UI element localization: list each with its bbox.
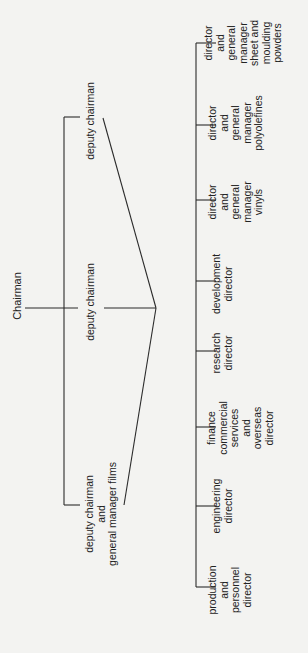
deputy-top-node: deputy chairman [85,82,97,160]
deputy-top-label: deputy chairman [85,82,97,160]
director-sheet-line: sheet and [249,20,261,66]
director-vinyls-line: general [230,181,242,222]
deputy-films-converge [124,308,156,505]
chairman-label: Chairman [12,272,24,320]
director-finance-line: finance [206,401,218,455]
director-production-line: production [207,565,219,614]
deputy-top-converge [103,118,156,308]
director-finance-line: services [229,401,241,455]
director-finance-line: director [263,401,275,455]
director-development-line: director [222,254,234,314]
deputy-middle-node: deputy chairman [85,263,97,341]
deputy-films-line: general manager films [107,462,119,566]
director-finance-node: finance commercial services and overseas… [206,401,275,455]
deputy-middle-label: deputy chairman [85,263,97,341]
director-polyolefines-node: director and general manager polyolefine… [207,95,265,150]
deputy-films-node: deputy chairman and general manager film… [84,462,119,566]
director-sheet-node: director and general manager sheet and m… [203,20,284,66]
director-engineering-line: engineering [211,479,223,534]
chairman-node: Chairman [12,272,24,320]
director-vinyls-line: vinyls [253,181,265,222]
director-production-line: director [242,565,254,614]
director-vinyls-node: director and general manager vinyls [207,181,265,222]
deputy-films-line: deputy chairman [84,462,96,566]
director-development-line: development [211,254,223,314]
director-polyolefines-line: polyolefines [253,95,265,150]
director-research-line: director [222,333,234,374]
director-research-line: research [211,333,223,374]
director-sheet-line: general [226,20,238,66]
director-polyolefines-line: director [207,95,219,150]
director-production-line: personnel [230,565,242,614]
director-research-node: research director [211,333,234,374]
director-engineering-node: engineering director [211,479,234,534]
director-production-node: production and personnel director [207,565,253,614]
director-sheet-line: director [203,20,215,66]
director-engineering-line: director [222,479,234,534]
director-polyolefines-line: general [230,95,242,150]
director-sheet-line: powders [272,20,284,66]
director-finance-line: overseas [252,401,264,455]
director-development-node: development director [211,254,234,314]
director-vinyls-line: director [207,181,219,222]
